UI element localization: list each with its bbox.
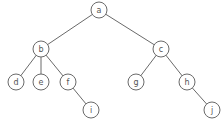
node-label: e xyxy=(39,78,44,87)
node-f: f xyxy=(60,74,76,90)
node-a: a xyxy=(91,2,107,18)
node-label: f xyxy=(67,78,70,87)
edges-group xyxy=(16,10,212,110)
node-label: c xyxy=(159,45,163,54)
node-h: h xyxy=(179,74,195,90)
node-label: b xyxy=(38,45,43,54)
node-label: i xyxy=(90,106,92,115)
node-d: d xyxy=(8,74,24,90)
node-c: c xyxy=(153,41,169,57)
node-g: g xyxy=(128,74,144,90)
edge-a-c xyxy=(99,10,161,49)
node-b: b xyxy=(33,41,49,57)
node-label: d xyxy=(13,78,18,87)
node-label: a xyxy=(97,6,102,15)
node-label: j xyxy=(210,106,213,115)
node-label: g xyxy=(133,78,138,87)
node-label: h xyxy=(184,78,189,87)
node-i: i xyxy=(83,102,99,118)
node-e: e xyxy=(33,74,49,90)
node-j: j xyxy=(204,102,220,118)
edge-a-b xyxy=(41,10,99,49)
tree-diagram: abcdefghij xyxy=(0,0,222,128)
